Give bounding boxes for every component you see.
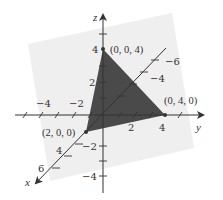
point-0-0-4 [101,47,105,51]
point-0-4-0 [163,113,167,117]
y-tick-4: 4 [159,122,165,133]
z-tick-4: 4 [92,44,98,55]
point-2-0-0 [84,130,88,134]
z-tick-2: 2 [89,77,95,88]
z-axis-label: z [92,11,98,23]
y-tick-neg2: −2 [69,98,84,109]
point-label-0-4-0: (0, 4, 0) [164,95,198,107]
y-axis-label: y [195,121,201,133]
z-tick-neg4: −4 [82,171,97,182]
x-tick-4: 4 [56,145,62,156]
point-label-0-0-4: (0, 0, 4) [110,44,144,56]
y-tick-2: 2 [128,122,134,133]
point-label-2-0-0: (2, 0, 0) [42,127,76,139]
x-axis-label: x [24,176,30,188]
x-tick-neg4: −4 [150,73,165,84]
x-tick-6: 6 [38,163,44,174]
y-tick-neg4: −4 [36,98,51,109]
coordinate-diagram: z y x 4 2 −2 −4 −4 −2 2 4 4 6 −4 −6 (0, … [0,0,223,200]
z-tick-neg2: −2 [82,141,97,152]
x-tick-neg6: −6 [165,56,180,67]
